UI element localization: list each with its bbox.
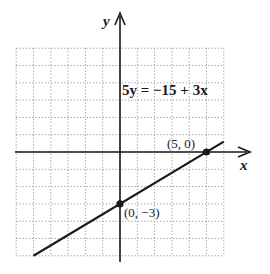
point-label-y-intercept: (0, −3) (124, 206, 160, 219)
x-axis-label: x (240, 158, 248, 173)
point-marker (116, 200, 123, 207)
x-axis (15, 147, 250, 157)
point-label-x-intercept: (5, 0) (167, 137, 195, 150)
y-axis-label: y (103, 14, 110, 29)
equation-label: 5y = −15 + 3x (122, 83, 208, 98)
y-axis (115, 13, 125, 262)
coordinate-plane (0, 0, 270, 274)
point-marker (203, 148, 210, 155)
